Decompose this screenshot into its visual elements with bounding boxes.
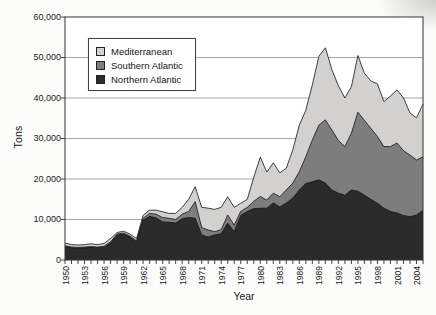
x-tick-label: 1962 <box>139 266 149 296</box>
y-tick-label: 20,000 <box>8 174 61 185</box>
x-tick-label: 1950 <box>61 266 71 296</box>
y-tick-label: 30,000 <box>8 133 61 144</box>
x-tick-label: 2001 <box>393 266 403 296</box>
y-tick-label: 60,000 <box>8 12 61 23</box>
legend-label-mediterranean: Mediterranean <box>111 46 172 57</box>
legend-item-northern-atlantic: Northern Atlantic <box>96 72 188 86</box>
y-tick-label: 10,000 <box>8 214 61 225</box>
x-tick-label: 1956 <box>100 266 110 296</box>
legend-item-mediterranean: Mediterranean <box>96 44 188 58</box>
legend-label-southern-atlantic: Southern Atlantic <box>111 60 183 71</box>
y-tick-label: 0 <box>8 255 61 266</box>
y-tick-label: 50,000 <box>8 52 61 63</box>
legend-label-northern-atlantic: Northern Atlantic <box>111 74 181 85</box>
x-tick-label: 2004 <box>412 266 422 296</box>
x-tick-label: 1959 <box>119 266 129 296</box>
x-tick-label: 1992 <box>334 266 344 296</box>
chart-figure: Tons 010,00020,00030,00040,00050,00060,0… <box>0 0 436 315</box>
legend: Mediterranean Southern Atlantic Northern… <box>88 38 196 91</box>
northern-atlantic-swatch-icon <box>96 75 105 84</box>
x-axis-title: Year <box>164 290 324 302</box>
legend-item-southern-atlantic: Southern Atlantic <box>96 58 188 72</box>
x-tick-label: 1953 <box>80 266 90 296</box>
southern-atlantic-swatch-icon <box>96 61 105 70</box>
x-tick-label: 1995 <box>353 266 363 296</box>
mediterranean-swatch-icon <box>96 47 105 56</box>
x-tick-label: 1998 <box>373 266 383 296</box>
y-tick-label: 40,000 <box>8 93 61 104</box>
